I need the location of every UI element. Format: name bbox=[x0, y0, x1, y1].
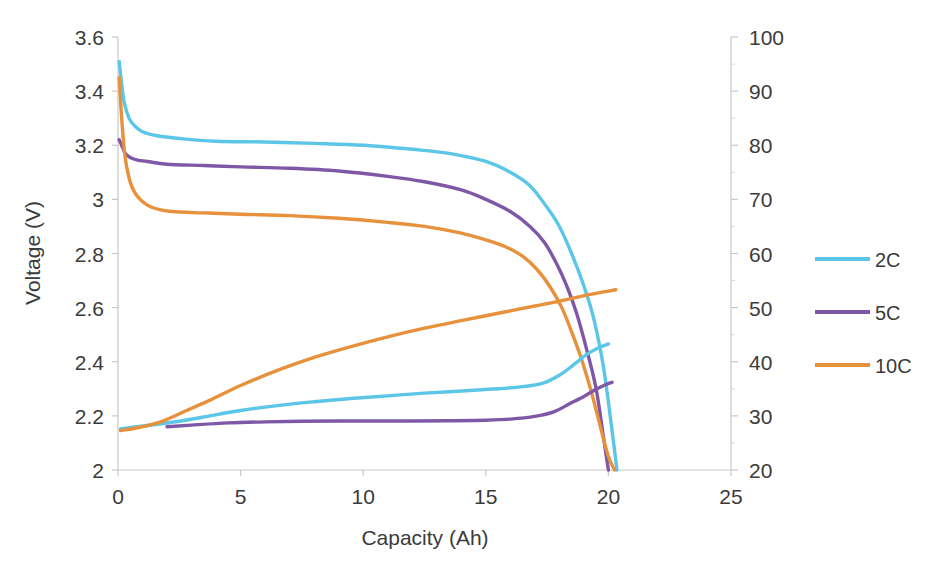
y2-tick-label: 30 bbox=[749, 405, 772, 428]
y2-tick-label: 20 bbox=[749, 459, 772, 482]
series-lines bbox=[119, 61, 617, 470]
y2-tick-label: 100 bbox=[749, 26, 784, 49]
y-tick-label: 3.2 bbox=[75, 134, 104, 157]
y-tick-label: 2.4 bbox=[75, 351, 105, 374]
plot-frame bbox=[118, 37, 731, 470]
discharge-curves-chart: 0510152025 22.22.42.62.833.23.43.6 20304… bbox=[0, 0, 925, 580]
legend-item[interactable]: 10C bbox=[815, 355, 912, 377]
x-tick-label: 20 bbox=[597, 485, 620, 508]
y-tick-label: 2.2 bbox=[75, 405, 104, 428]
series-line-10c-secondary bbox=[120, 290, 615, 431]
x-axis-title: Capacity (Ah) bbox=[361, 526, 488, 549]
y2-tick-label: 90 bbox=[749, 80, 772, 103]
y2-tick-label: 60 bbox=[749, 243, 772, 266]
y2-tick-label: 50 bbox=[749, 297, 772, 320]
legend-item[interactable]: 2C bbox=[815, 249, 901, 271]
y-axis-tick-labels: 22.22.42.62.833.23.43.6 bbox=[75, 26, 105, 482]
secondary-y-axis-tick-labels: 2030405060708090100 bbox=[749, 26, 784, 482]
legend-label-5c: 5C bbox=[875, 302, 901, 324]
y-tick-label: 2 bbox=[92, 459, 104, 482]
legend: 2C5C10C bbox=[815, 249, 912, 377]
y2-tick-label: 70 bbox=[749, 188, 772, 211]
series-line-10c-voltage bbox=[119, 78, 614, 470]
x-axis-tick-labels: 0510152025 bbox=[112, 485, 743, 508]
legend-item[interactable]: 5C bbox=[815, 302, 901, 324]
y-tick-label: 2.8 bbox=[75, 243, 104, 266]
chart-container: 0510152025 22.22.42.62.833.23.43.6 20304… bbox=[0, 0, 925, 580]
x-tick-label: 25 bbox=[719, 485, 742, 508]
x-tick-label: 5 bbox=[235, 485, 247, 508]
y-tick-label: 2.6 bbox=[75, 297, 104, 320]
y2-tick-label: 80 bbox=[749, 134, 772, 157]
y-tick-label: 3 bbox=[92, 188, 104, 211]
y-tick-label: 3.6 bbox=[75, 26, 104, 49]
x-tick-label: 10 bbox=[352, 485, 375, 508]
y-tick-label: 3.4 bbox=[75, 80, 105, 103]
axes bbox=[112, 37, 738, 476]
legend-label-2c: 2C bbox=[875, 249, 901, 271]
y-axis-title: Voltage (V) bbox=[21, 201, 44, 305]
x-tick-label: 15 bbox=[474, 485, 497, 508]
legend-label-10c: 10C bbox=[875, 355, 912, 377]
x-tick-label: 0 bbox=[112, 485, 124, 508]
y2-tick-label: 40 bbox=[749, 351, 772, 374]
